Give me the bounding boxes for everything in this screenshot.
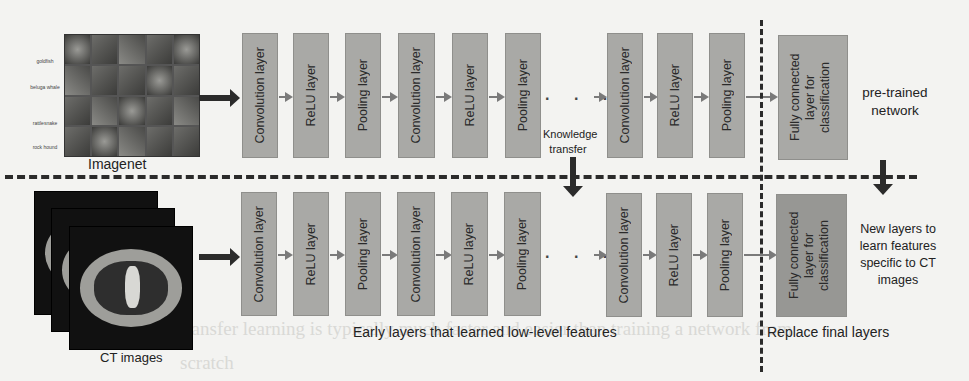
layer-label: Pooling layer [515,218,530,290]
layer-label: Fully connected layer for classification [787,198,837,313]
flow-arrow [744,254,775,256]
layer-label: ReLU layer [667,224,682,287]
top-fully-connected-layer: Fully connected layer for classification [778,35,848,160]
imagenet-row-label: beluga whale [28,84,62,90]
knowledge-transfer-arrow [570,157,576,187]
bottom-convolution-layer-3: Convolution layer [606,193,642,317]
top-relu-layer-1: ReLU layer [293,33,329,158]
layer-label: ReLU layer [462,223,477,286]
imagenet-label: Imagenet [88,156,146,172]
top-relu-layer-3: ReLU layer [657,33,693,158]
flow-arrow [643,254,655,256]
top-pooling-layer-2: Pooling layer [505,33,541,158]
flow-arrow [594,96,605,98]
knowledge-transfer-label: Knowledge transfer [543,127,593,157]
layer-label: Convolution layer [252,206,267,303]
horizontal-divider [5,175,917,179]
bottom-convolution-layer-1: Convolution layer [241,192,277,316]
flow-arrow [330,254,343,256]
flow-arrow [693,254,706,256]
imagenet-input-arrow [199,95,232,101]
layer-label: Pooling layer [516,59,531,131]
bottom-convolution-layer-2: Convolution layer [397,192,435,316]
flow-arrow [278,254,291,256]
ct-input-arrow [199,254,232,260]
imagenet-row-label: rock hound [28,144,62,150]
replace-final-layers-label: Replace final layers [767,324,889,340]
flow-arrow [489,96,503,98]
flow-arrow [489,254,503,256]
flow-arrow [382,96,396,98]
bottom-pooling-layer-2: Pooling layer [504,192,541,316]
bottom-pooling-layer-3: Pooling layer [707,193,743,317]
imagenet-row-label: rattlesnake [28,120,62,126]
layer-label: Convolution layer [253,47,268,144]
ct-image-front [69,226,193,350]
layer-label: Fully connected layer for classification [788,40,838,155]
bottom-fully-connected-layer: Fully connected layer for classification [776,194,847,317]
ct-images-label: CT images [100,350,163,366]
flow-arrow [436,96,450,98]
bottom-relu-layer-2: ReLU layer [451,192,488,316]
layer-label: ReLU layer [304,223,319,286]
top-convolution-layer-1: Convolution layer [242,33,278,158]
top-relu-layer-2: ReLU layer [452,33,488,158]
flow-arrow [694,96,707,98]
flow-arrow [279,96,291,98]
layer-label: ReLU layer [304,64,319,127]
flow-arrow [644,96,656,98]
top-pooling-layer-1: Pooling layer [345,33,381,158]
top-pooling-layer-3: Pooling layer [709,33,745,158]
new-layers-label: New layers to learn features specific to… [852,221,944,289]
flow-arrow [436,254,450,256]
layer-label: Pooling layer [356,59,371,131]
layer-label: ReLU layer [463,64,478,127]
layer-label: Pooling layer [356,218,371,290]
layer-label: Convolution layer [617,207,632,304]
layer-label: Pooling layer [718,219,733,291]
flow-arrow [594,254,605,256]
bottom-relu-layer-1: ReLU layer [293,192,329,316]
bottom-relu-layer-3: ReLU layer [656,193,692,317]
vertical-divider [760,20,763,372]
background-text-line-2: scratch [180,352,234,374]
layer-label: Convolution layer [409,47,424,144]
bottom-pooling-layer-1: Pooling layer [345,192,381,316]
layer-label: Convolution layer [409,206,424,303]
top-convolution-layer-2: Convolution layer [398,33,435,158]
pretrained-network-label: pre-trained network [855,84,935,120]
layer-label: Convolution layer [618,47,633,144]
flow-arrow [382,254,396,256]
imagenet-image-grid [64,34,200,157]
layer-label: ReLU layer [668,64,683,127]
flow-arrow [330,96,343,98]
early-layers-label: Early layers that learned low-level feat… [353,324,617,340]
imagenet-row-label: goldfish [28,58,62,64]
top-convolution-layer-3: Convolution layer [607,33,643,158]
layer-label: Pooling layer [720,59,735,131]
replace-layers-arrow [880,160,886,185]
